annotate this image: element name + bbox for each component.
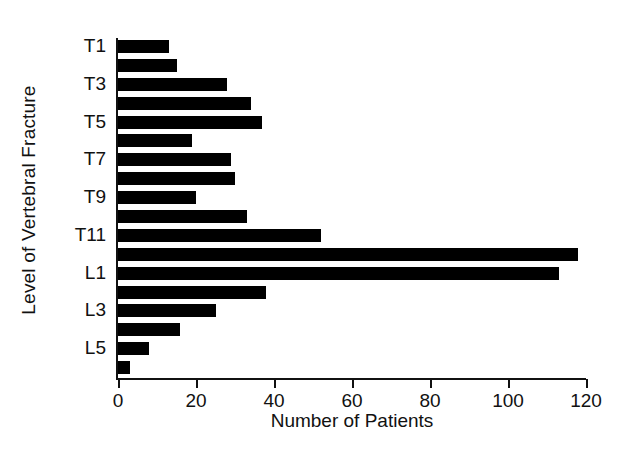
bar-row [118,284,586,304]
y-axis-tick-label: L5 [85,338,106,358]
bar-row: L3 [118,302,586,322]
plot-area: T1T3T5T7T9T11L1L3L5 020406080100120 [118,38,586,378]
y-axis-title: Level of Vertebral Fracture [12,10,46,390]
bar [118,229,321,242]
y-axis-tick-label: T1 [84,36,106,56]
bar [118,40,169,53]
bar-row [118,57,586,77]
y-axis-tick-label: T5 [84,112,106,132]
bar [118,286,266,299]
bar-row: L5 [118,340,586,360]
bar-row [118,208,586,228]
bar-row [118,170,586,190]
y-axis-tick-label: L3 [85,300,106,320]
bar-row: T1 [118,38,586,58]
bar [118,191,196,204]
bar-row [118,246,586,266]
bar-row [118,321,586,341]
bar-row [118,95,586,115]
bar [118,342,149,355]
x-axis-tick-mark [430,379,432,388]
bar [118,59,177,72]
bar-row: T5 [118,114,586,134]
x-axis-tick-label: 60 [341,390,362,412]
y-axis-tick-label: T7 [84,149,106,169]
x-axis-tick-mark [274,379,276,388]
x-axis-tick-mark [196,379,198,388]
y-axis-tick-label: T9 [84,187,106,207]
bar-row: T3 [118,76,586,96]
bar [118,97,251,110]
x-axis-tick-label: 40 [263,390,284,412]
bar-row [118,359,586,379]
bar [118,323,180,336]
bar [118,210,247,223]
x-axis-tick-label: 20 [185,390,206,412]
bar [118,78,227,91]
bar [118,134,192,147]
x-axis-tick-mark [586,379,588,388]
bar [118,361,130,374]
bar-row: T7 [118,151,586,171]
bar-row [118,132,586,152]
x-axis-title: Number of Patients [118,410,586,432]
bar [118,267,559,280]
y-axis-tick-label: L1 [85,263,106,283]
x-axis-tick-mark [508,379,510,388]
x-axis-tick-mark [352,379,354,388]
x-axis-tick-label: 80 [419,390,440,412]
bar-row: T9 [118,189,586,209]
bar-row: T11 [118,227,586,247]
x-axis-tick-label: 120 [570,390,602,412]
bar [118,116,262,129]
bar [118,153,231,166]
x-axis-tick-label: 0 [113,390,124,412]
bar-chart-figure: Level of Vertebral Fracture T1T3T5T7T9T1… [0,0,635,466]
x-axis-tick-label: 100 [492,390,524,412]
bar-row: L1 [118,265,586,285]
bar [118,248,578,261]
x-axis-tick-mark [118,379,120,388]
y-axis-tick-label: T3 [84,74,106,94]
y-axis-tick-label: T11 [75,225,106,245]
bar [118,304,216,317]
bar [118,172,235,185]
